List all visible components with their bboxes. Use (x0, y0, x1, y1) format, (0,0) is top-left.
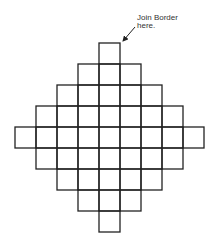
grid-cell (57, 106, 78, 127)
grid-cell (78, 148, 99, 169)
grid-cell (78, 190, 99, 211)
grid-cell (141, 85, 162, 106)
grid-cell (141, 148, 162, 169)
grid-cell (141, 106, 162, 127)
grid-cell (57, 85, 78, 106)
grid-cell (120, 190, 141, 211)
annotation-line-2: here. (137, 22, 178, 30)
grid-cell (120, 127, 141, 148)
grid-cell (99, 64, 120, 85)
grid-cell (99, 211, 120, 232)
grid-cell (57, 148, 78, 169)
grid-cell (120, 85, 141, 106)
grid-cell (162, 127, 183, 148)
grid-cell (120, 64, 141, 85)
grid-cell (99, 106, 120, 127)
grid-cell (78, 106, 99, 127)
grid-cell (99, 169, 120, 190)
grid-cell (78, 169, 99, 190)
grid-cell (99, 85, 120, 106)
grid-cell (141, 127, 162, 148)
pointer-arrow (123, 27, 135, 41)
join-border-annotation: Join Border here. (137, 14, 178, 30)
diamond-grid (0, 0, 221, 246)
grid-cell (36, 106, 57, 127)
grid-cell (162, 148, 183, 169)
grid-cell (99, 190, 120, 211)
grid-cell (57, 169, 78, 190)
grid-cell (120, 169, 141, 190)
grid-cell (162, 106, 183, 127)
grid-cell (15, 127, 36, 148)
grid-cell (36, 148, 57, 169)
grid-cell (141, 169, 162, 190)
grid-cell (120, 106, 141, 127)
grid-cell (120, 148, 141, 169)
grid-cell (78, 85, 99, 106)
grid-cell (78, 64, 99, 85)
grid-cell (99, 43, 120, 64)
grid-cell (78, 127, 99, 148)
grid-cell (36, 127, 57, 148)
grid-cell (99, 127, 120, 148)
grid-cell (99, 148, 120, 169)
grid-cell (57, 127, 78, 148)
grid-cells (15, 43, 204, 232)
grid-cell (183, 127, 204, 148)
